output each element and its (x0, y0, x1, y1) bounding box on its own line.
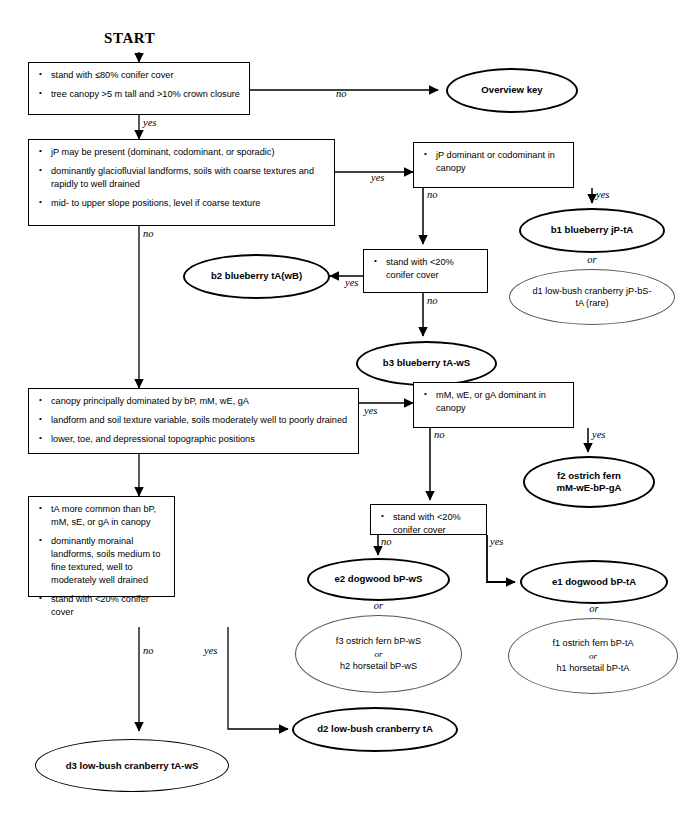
oval-d1-low-bush-cranberry-jp-bs-ta[interactable]: d1 low-bush cranberry jP-bS- tA (rare) (509, 269, 675, 325)
oval-line: or (542, 650, 643, 662)
oval-overview-key[interactable]: Overview key (446, 68, 578, 113)
criteria-box-ta: tA more common than bP, mM, sE, or gA in… (28, 496, 175, 597)
edge-label-yes: yes (204, 645, 217, 656)
criteria-item: jP dominant or codominant in canopy (418, 149, 567, 175)
or-label: or (307, 600, 450, 611)
criteria-item: mM, wE, or gA dominant in canopy (418, 389, 567, 415)
edge-label-yes: yes (490, 536, 503, 547)
oval-f2-ostrich-fern[interactable]: f2 ostrich fern mM-wE-bP-gA (523, 456, 655, 508)
criteria-item: stand with <20% conifer cover (375, 511, 480, 537)
criteria-box-bp: canopy principally dominated by bP, mM, … (28, 388, 359, 454)
criteria-item: jP may be present (dominant, codominant,… (33, 146, 328, 159)
criteria-item: canopy principally dominated by bP, mM, … (33, 395, 352, 408)
criteria-box-conifer20-lower: stand with <20% conifer cover (370, 504, 487, 535)
oval-line: f3 ostrich fern bP-wS (326, 635, 431, 647)
oval-label: d1 low-bush cranberry jP-bS- tA (rare) (513, 285, 672, 310)
criteria-item: landform and soil texture variable, soil… (33, 414, 352, 427)
oval-b2-blueberry-ta-wb[interactable]: b2 blueberry tA(wB) (183, 254, 330, 299)
criteria-item: tA more common than bP, mM, sE, or gA in… (33, 503, 168, 529)
oval-label: b2 blueberry tA(wB) (201, 270, 312, 282)
oval-line: f1 ostrich fern bP-tA (542, 637, 643, 649)
criteria-item: dominantly glaciofluvial landforms, soil… (33, 165, 328, 191)
oval-b1-blueberry-jp-ta[interactable]: b1 blueberry jP-tA (519, 208, 665, 253)
edge-label-no: no (143, 228, 154, 239)
oval-label: f3 ostrich fern bP-wS or h2 horsetail bP… (316, 635, 441, 672)
criteria-item: mid- to upper slope positions, level if … (33, 197, 328, 210)
or-label: or (519, 254, 665, 265)
criteria-box-jp: jP may be present (dominant, codominant,… (28, 139, 335, 226)
criteria-box-start: stand with ≤80% conifer cover tree canop… (28, 62, 250, 115)
oval-label: d3 low-bush cranberry tA-wS (56, 760, 209, 771)
oval-line: h1 horsetail bP-tA (542, 662, 643, 674)
edge-label-no: no (381, 536, 392, 547)
oval-f3-h2-alternatives[interactable]: f3 ostrich fern bP-wS or h2 horsetail bP… (295, 615, 462, 693)
oval-line: h2 horsetail bP-wS (326, 660, 431, 672)
edge-label-yes: yes (364, 405, 377, 416)
edge-label-yes: yes (371, 172, 384, 183)
oval-d3-low-bush-cranberry-ta-ws[interactable]: d3 low-bush cranberry tA-wS (35, 739, 229, 792)
oval-d2-low-bush-cranberry-ta[interactable]: d2 low-bush cranberry tA (292, 707, 458, 752)
oval-line: d1 low-bush cranberry jP-bS- (523, 285, 662, 297)
oval-e2-dogwood-bp-ws[interactable]: e2 dogwood bP-wS (307, 558, 450, 601)
oval-line: mM-wE-bP-gA (546, 482, 631, 494)
oval-label: d2 low-bush cranberry tA (307, 723, 443, 735)
criteria-box-mm-dominant: mM, wE, or gA dominant in canopy (413, 382, 574, 428)
criteria-item: stand with <20% conifer cover (368, 256, 481, 282)
oval-label: e2 dogwood bP-wS (325, 573, 433, 585)
oval-line: f2 ostrich fern (546, 470, 631, 482)
oval-e1-dogwood-bp-ta[interactable]: e1 dogwood bP-tA (520, 560, 668, 604)
criteria-item: stand with <20% conifer cover (33, 593, 168, 619)
oval-line: or (326, 648, 431, 660)
edge-label-yes: yes (345, 277, 358, 288)
edge-label-no: no (143, 645, 154, 656)
oval-f1-h1-alternatives[interactable]: f1 ostrich fern bP-tA or h1 horsetail bP… (508, 618, 678, 694)
criteria-box-jp-dominant: jP dominant or codominant in canopy (413, 142, 574, 188)
oval-label: b3 blueberry tA-wS (373, 357, 480, 369)
start-label: START (104, 30, 155, 47)
oval-label: f2 ostrich fern mM-wE-bP-gA (536, 470, 641, 495)
edge-label-no: no (427, 189, 438, 200)
edge-label-no: no (434, 429, 445, 440)
edge-label-no: no (427, 295, 438, 306)
criteria-item: tree canopy >5 m tall and >10% crown clo… (33, 88, 243, 101)
criteria-box-conifer20-upper: stand with <20% conifer cover (363, 249, 488, 293)
oval-label: e1 dogwood bP-tA (542, 576, 646, 588)
edge-label-yes: yes (592, 429, 605, 440)
edge-label-yes: yes (596, 189, 609, 200)
criteria-item: stand with ≤80% conifer cover (33, 69, 243, 82)
edge-label-no: no (336, 88, 347, 99)
criteria-item: lower, toe, and depressional topographic… (33, 433, 352, 446)
oval-label: f1 ostrich fern bP-tA or h1 horsetail bP… (532, 637, 653, 674)
or-label: or (520, 603, 668, 614)
criteria-item: dominantly morainal landforms, soils med… (33, 535, 168, 587)
oval-b3-blueberry-ta-ws[interactable]: b3 blueberry tA-wS (356, 341, 497, 386)
flowchart-canvas: START stand with ≤80% conifer cover tree… (0, 0, 696, 826)
edge-label-yes: yes (143, 117, 156, 128)
oval-label: b1 blueberry jP-tA (541, 224, 644, 236)
oval-label: Overview key (471, 84, 552, 96)
oval-line: tA (rare) (523, 297, 662, 309)
